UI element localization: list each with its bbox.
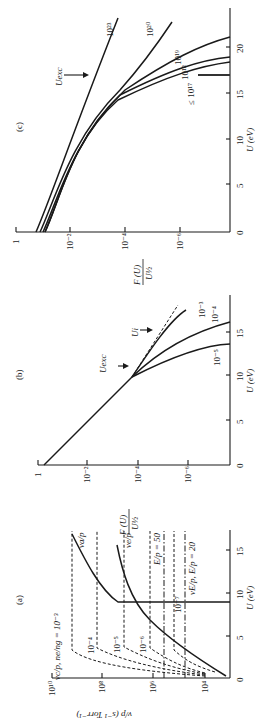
panel-c-uexc-label: Uexc: [54, 68, 64, 86]
panel-a-ylabel: ν/p (s⁻¹ Torr⁻¹): [76, 710, 132, 720]
panel-c-label-1e17: ≤ 10¹⁷: [186, 83, 196, 105]
panel-a-label-ep20: νE/p, E/p = 20: [187, 541, 197, 595]
panel-a-label-1e-6: 10⁻⁶: [138, 636, 148, 653]
panel-b-common-curve: [44, 377, 132, 465]
panel-a-label-1e-5: 10⁻⁵: [112, 636, 122, 653]
panel-a-label-ep50: E/p = 50: [152, 532, 162, 566]
panel-a-ytick-1e8: 10⁸: [97, 681, 107, 693]
panel-c-curve-1e17: [45, 62, 230, 232]
panel-b-xtick-15: 15: [235, 329, 245, 339]
panel-c-ytick-1e-4: 10⁻⁴: [120, 233, 130, 250]
panel-c-ytick-1: 1: [11, 240, 21, 245]
panel-b-ytick-1e-6: 10⁻⁶: [183, 466, 193, 483]
panel-c-xlabel: U (eV): [245, 128, 255, 152]
panel-c-xtick-15: 15: [235, 90, 245, 100]
panel-a-xlabel: U (eV): [245, 586, 255, 610]
panel-a-nu-e-curve: [117, 545, 226, 676]
panel-b-label-1e-5: 10⁻⁵: [212, 349, 222, 366]
panel-c: 1 10⁻² 10⁻⁴ 10⁻⁶ 0 5 10 15 20 U (eV) (c)…: [11, 8, 255, 250]
panel-c-curve-1e18: [45, 57, 230, 232]
panel-c-xtick-5: 5: [235, 183, 245, 188]
panel-a-xtick-0: 0: [235, 677, 245, 682]
panel-a-nu-a-curve: [72, 534, 230, 602]
panel-a-xtick-5: 5: [235, 635, 245, 640]
panel-b-title: (b): [14, 370, 24, 381]
panel-a-title: (a): [14, 595, 24, 605]
figure-canvas: 1 10⁻² 10⁻⁴ 10⁻⁶ 0 5 10 15 20 U (eV) (c)…: [0, 0, 268, 723]
panel-a-label-1e-4: 10⁻⁴: [86, 637, 96, 654]
panel-b-xlabel: U (eV): [245, 369, 255, 393]
panel-b-xtick-5: 5: [235, 419, 245, 424]
panel-b-xtick-0: 0: [235, 463, 245, 468]
panel-b-label-1e-4: 10⁻⁴: [210, 306, 220, 323]
panel-a-y2label-denominator: U½: [130, 517, 140, 530]
panel-a-ytick-1e4: 10⁴: [200, 681, 210, 693]
panel-b-ylabel-numerator: F (U): [132, 265, 142, 286]
panel-b-xtick-10: 10: [235, 372, 245, 382]
panel-b-ylabel-denominator: U½: [144, 267, 154, 280]
panel-c-curve-1e19: [43, 37, 230, 232]
panel-c-ytick-1e-2: 10⁻²: [65, 233, 75, 250]
panel-c-label-1e20: 10²⁰: [145, 21, 155, 37]
panel-c-ytick-1e-6: 10⁻⁶: [175, 233, 185, 250]
panel-a-y2label-numerator: F (U): [118, 515, 128, 536]
panel-a-label-1e-7: 10⁻⁷: [173, 596, 183, 613]
panel-b: 1 10⁻² 10⁻⁴ 10⁻⁶ 0 5 10 15 U (eV) (b) F …: [14, 259, 255, 483]
panel-a-label-1e-3: νc/p, ne/ng = 10⁻³: [52, 613, 62, 680]
panel-a-label-nu-e: νe/p: [123, 533, 133, 548]
panel-a-ytick-1e10: 10¹⁰: [47, 680, 57, 696]
panel-b-ytick-1: 1: [33, 473, 43, 478]
panel-a-label-nu-a: νa/p: [76, 532, 86, 548]
panel-a-ytick-1e6: 10⁶: [148, 681, 158, 693]
panel-c-label-1e19: 10¹⁹: [173, 50, 183, 65]
panel-b-ui-label: Ui: [130, 328, 140, 337]
panel-c-title: (c): [14, 122, 24, 132]
panel-c-curve-1e20: [40, 22, 172, 232]
panel-b-ytick-1e-2: 10⁻²: [82, 466, 92, 483]
panel-c-xtick-0: 0: [235, 230, 245, 235]
panel-c-xtick-20: 20: [235, 44, 245, 54]
panel-a: 10¹⁰ 10⁸ 10⁶ 10⁴ 0 5 10 15 U (eV) (a) ν/…: [14, 509, 255, 720]
panel-a-xtick-15: 15: [235, 547, 245, 557]
panel-c-curve-1e23: [36, 18, 118, 232]
panel-c-label-1e18: 10¹⁸: [180, 65, 190, 80]
panel-a-xtick-10: 10: [235, 590, 245, 600]
panel-b-ytick-1e-4: 10⁻⁴: [133, 466, 143, 483]
panel-c-xtick-10: 10: [235, 136, 245, 146]
panel-b-label-1e-3: 10⁻³: [197, 301, 207, 318]
panel-c-label-1e23: 10²³: [105, 22, 115, 37]
panel-b-uexc-label: Uexc: [98, 355, 108, 373]
